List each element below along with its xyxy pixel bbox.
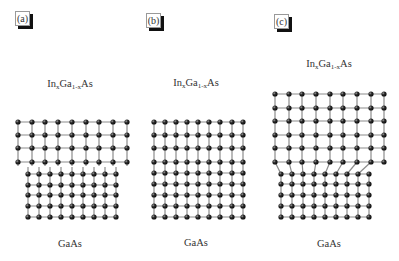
atom (299, 91, 304, 96)
atom (299, 159, 304, 164)
atom (83, 132, 88, 137)
atom (381, 105, 386, 110)
atom (58, 171, 63, 176)
atom (300, 192, 305, 197)
atom (240, 145, 245, 150)
atom (184, 159, 189, 164)
atom (162, 192, 167, 197)
atom (286, 105, 291, 110)
atom (333, 171, 338, 176)
atom (58, 203, 63, 208)
atom (278, 214, 283, 219)
atom (286, 145, 291, 150)
atom (173, 159, 178, 164)
atom (25, 171, 30, 176)
atom (327, 159, 332, 164)
atom (229, 192, 234, 197)
atom (58, 214, 63, 219)
atom (47, 192, 52, 197)
atom (355, 203, 360, 208)
atom (327, 145, 332, 150)
atom (311, 203, 316, 208)
atom (229, 170, 234, 175)
atom (15, 119, 20, 124)
atom (113, 171, 118, 176)
atom (240, 181, 245, 186)
atom (229, 132, 234, 137)
atom (102, 214, 107, 219)
atom (272, 118, 277, 123)
atom (195, 132, 200, 137)
atom (381, 118, 386, 123)
atom (124, 159, 129, 164)
atom (272, 91, 277, 96)
atom (311, 214, 316, 219)
atom (195, 159, 200, 164)
atom (91, 203, 96, 208)
atom (217, 181, 222, 186)
atom (151, 214, 156, 219)
atom (272, 159, 277, 164)
atom (354, 91, 359, 96)
atom (195, 181, 200, 186)
atom (366, 181, 371, 186)
atom (344, 171, 349, 176)
atom (55, 159, 60, 164)
atom (195, 119, 200, 124)
atom (124, 119, 129, 124)
atom (80, 203, 85, 208)
atom (173, 181, 178, 186)
atom (229, 145, 234, 150)
atom (354, 132, 359, 137)
atom (340, 145, 345, 150)
atom (69, 132, 74, 137)
atom (25, 203, 30, 208)
atom (36, 171, 41, 176)
atom (173, 119, 178, 124)
atom (217, 203, 222, 208)
atom (286, 132, 291, 137)
atom (96, 159, 101, 164)
bond-lines (18, 94, 384, 217)
atom (42, 119, 47, 124)
atom (206, 119, 211, 124)
atom (91, 182, 96, 187)
atom (47, 203, 52, 208)
atom (354, 145, 359, 150)
atom (229, 119, 234, 124)
atom (206, 214, 211, 219)
atom (368, 159, 373, 164)
atom (47, 214, 52, 219)
atom (96, 132, 101, 137)
atom (366, 203, 371, 208)
atom (162, 159, 167, 164)
atom (327, 91, 332, 96)
atom (15, 145, 20, 150)
atom (240, 214, 245, 219)
atom (229, 214, 234, 219)
atom (229, 159, 234, 164)
atom (80, 171, 85, 176)
atom (184, 214, 189, 219)
atom (42, 159, 47, 164)
atom (195, 170, 200, 175)
atom (151, 203, 156, 208)
atoms (15, 91, 386, 219)
atom (162, 203, 167, 208)
atom (217, 145, 222, 150)
atom (333, 181, 338, 186)
atom (47, 171, 52, 176)
atom (29, 159, 34, 164)
atom (55, 119, 60, 124)
atom (124, 145, 129, 150)
atom (289, 171, 294, 176)
atom (217, 132, 222, 137)
atom (333, 192, 338, 197)
atom (300, 171, 305, 176)
atom (151, 132, 156, 137)
atom (311, 192, 316, 197)
atom (340, 159, 345, 164)
atom (96, 119, 101, 124)
atom (322, 214, 327, 219)
atom (299, 118, 304, 123)
